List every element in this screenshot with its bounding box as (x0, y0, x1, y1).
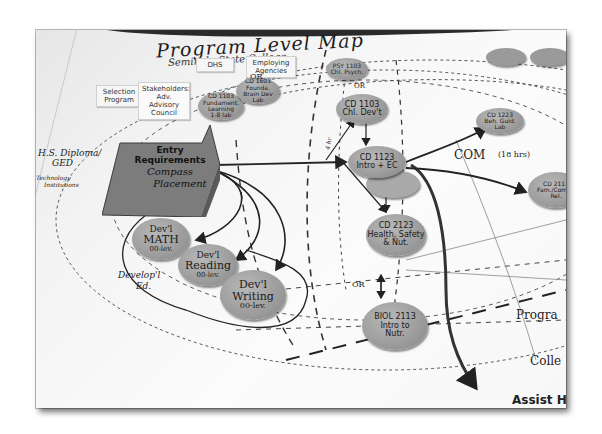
com-label: COM (454, 148, 485, 162)
node-cd1123: CD 1123Intro + EC (348, 146, 406, 178)
node-top-right-2 (530, 48, 566, 66)
note-diploma: H.S. Diploma/ (38, 148, 101, 158)
note-ged: GED (52, 158, 73, 168)
node-cd2123: CD 2123Health, Safety& Nut. (366, 214, 426, 256)
node-cd1103-child-dev: CD 1103Chl. Dev't (336, 94, 388, 124)
node-top-right-1 (486, 48, 526, 66)
entry-line4: Placement (130, 178, 230, 189)
node-dev-writing: Dev'lWriting00-lev. (220, 270, 286, 320)
note-tech1: Technology (36, 174, 71, 181)
entry-line1: Entry (120, 145, 220, 155)
node-cd1603: CD 1603Founda.Brain DevLab (236, 78, 280, 104)
note-tech2: Institutions (44, 181, 79, 188)
program-level-label: Progra (516, 308, 558, 322)
card-stakeholders: Stakeholders: Adv. Advisory Council (138, 82, 190, 120)
or-label-biol: OR (352, 280, 365, 289)
node-psy1103: PSY 1103Chl. Psych. (326, 58, 368, 80)
bottom-outcome-label: Assist HS (512, 393, 566, 407)
program-map-poster: Program Level Map Seminole State College… (36, 30, 566, 408)
com-hours-label: (18 hrs) (498, 150, 530, 159)
card-selection-program: Selection Program (96, 85, 142, 107)
note-dev-ed2: Ed. (136, 281, 151, 291)
entry-requirements-arrow: Entry Requirements Compass Placement (102, 125, 220, 217)
or-label-top: OR (250, 72, 263, 81)
node-cd1223: CD 1223Beh. Guid.Lab (476, 108, 524, 134)
note-dev-ed1: Develop'l (118, 270, 160, 280)
or-label-psy: OR (354, 82, 365, 90)
college-level-label: Colle (530, 354, 561, 368)
card-dhs: DHS (196, 58, 234, 72)
entry-line3: Compass (120, 166, 220, 177)
node-biol2113: BIOL 2113Intro toNutr. (362, 302, 428, 350)
entry-line2: Requirements (120, 155, 220, 165)
